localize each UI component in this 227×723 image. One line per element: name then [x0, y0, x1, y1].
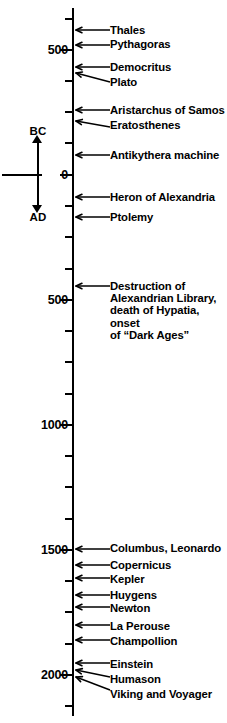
axis-tick-minor [65, 580, 73, 582]
axis-tick-minor [65, 705, 73, 707]
axis-tick-minor [65, 486, 73, 488]
axis-tick-minor [65, 236, 73, 238]
axis-year-label: 1000 [41, 419, 68, 432]
axis-tick-minor [65, 330, 73, 332]
axis-tick-minor [65, 18, 73, 20]
zero-year-rule [2, 174, 42, 176]
axis-tick-minor [65, 518, 73, 520]
ad-label: AD [8, 212, 68, 224]
axis-tick-minor [65, 455, 73, 457]
axis-year-label: 500 [48, 44, 68, 57]
axis-tick-minor [65, 643, 73, 645]
axis-tick-minor [65, 611, 73, 613]
axis-tick-minor [65, 268, 73, 270]
timeline-figure: 5000500100015002000 BC AD ThalesPythagor… [0, 0, 227, 723]
axis-year-label: 1500 [41, 544, 68, 557]
axis-year-label: 2000 [41, 669, 68, 682]
event-label: Viking and Voyager [110, 688, 212, 700]
axis-tick-minor [65, 393, 73, 395]
axis-tick-minor [65, 361, 73, 363]
axis-year-label: 500 [48, 294, 68, 307]
axis-tick-minor [65, 111, 73, 113]
axis-tick-minor [65, 80, 73, 82]
